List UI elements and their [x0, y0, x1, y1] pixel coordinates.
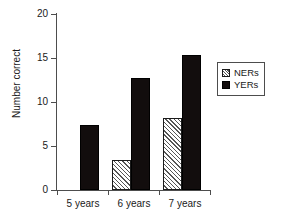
bar-yers-5-years — [80, 125, 99, 190]
bar-ners-6-years — [112, 160, 131, 190]
y-axis-title: Number correct — [11, 24, 22, 144]
legend-entry-yers: YERs — [222, 79, 259, 91]
y-tick-label-5: 5 — [28, 141, 48, 151]
bar-yers-6-years — [131, 78, 150, 190]
x-tick-label-7-years: 7 years — [155, 199, 215, 209]
legend-entry-ners: NERs — [222, 67, 259, 79]
legend-label-ners: NERs — [234, 68, 259, 78]
bar-yers-7-years — [182, 55, 201, 190]
legend-label-yers: YERs — [234, 80, 258, 90]
y-tick-mark-5 — [51, 146, 56, 147]
y-tick-mark-20 — [51, 14, 56, 15]
solid-black-swatch-icon — [222, 81, 230, 89]
x-tick-mark-left — [57, 191, 58, 195]
bar-chart-figure: Number correct 20 15 10 5 0 5 years 6 ye… — [0, 0, 282, 224]
y-tick-label-20: 20 — [28, 9, 48, 19]
plot-area — [57, 14, 205, 190]
bar-ners-7-years — [163, 118, 182, 190]
x-tick-mark-right — [210, 191, 211, 195]
y-tick-mark-15 — [51, 58, 56, 59]
x-tick-mark-1 — [108, 191, 109, 195]
hatched-swatch-icon — [222, 69, 230, 77]
y-tick-label-0: 0 — [28, 185, 48, 195]
y-tick-mark-0 — [51, 190, 56, 191]
chart-legend: NERs YERs — [217, 62, 265, 96]
y-axis-tick-labels: 20 15 10 5 0 — [26, 0, 48, 224]
y-tick-label-10: 10 — [28, 97, 48, 107]
x-axis-spine — [56, 190, 211, 191]
x-tick-mark-2 — [159, 191, 160, 195]
y-tick-mark-10 — [51, 102, 56, 103]
y-tick-label-15: 15 — [28, 53, 48, 63]
